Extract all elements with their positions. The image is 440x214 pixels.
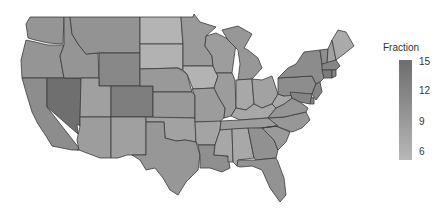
us-choropleth-map bbox=[0, 0, 380, 214]
legend-title: Fraction bbox=[383, 42, 419, 53]
state-FL bbox=[237, 158, 286, 202]
state-CO bbox=[111, 86, 153, 117]
legend-tick-15: 15 bbox=[419, 56, 430, 67]
state-ND bbox=[140, 17, 183, 44]
legend-color-bar bbox=[399, 60, 412, 160]
state-KS bbox=[153, 92, 195, 118]
state-IN bbox=[236, 79, 254, 110]
state-ME bbox=[332, 30, 354, 60]
legend-tick-12: 12 bbox=[419, 85, 430, 96]
state-CT bbox=[322, 70, 332, 78]
state-SD bbox=[140, 44, 183, 70]
state-OR bbox=[21, 40, 64, 78]
state-NM bbox=[111, 117, 146, 158]
legend-tick-6: 6 bbox=[419, 146, 425, 157]
color-legend: Fraction 15 12 9 6 bbox=[383, 42, 440, 172]
state-AZ bbox=[77, 117, 111, 158]
state-RI bbox=[332, 70, 336, 78]
legend-tick-9: 9 bbox=[419, 116, 425, 127]
state-WA bbox=[26, 17, 64, 44]
state-WY bbox=[99, 53, 140, 86]
